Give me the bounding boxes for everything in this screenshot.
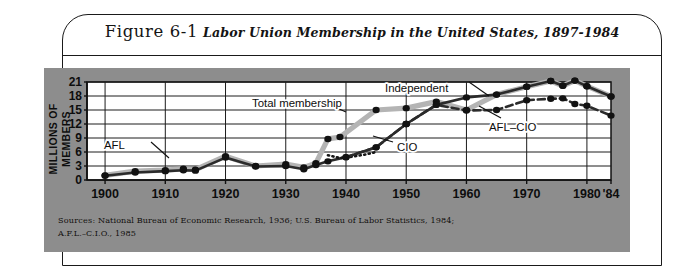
data-point: [523, 97, 530, 103]
data-point: [282, 163, 289, 169]
sources-line-1: National Bureau of Economic Research, 19…: [98, 215, 454, 225]
line-chart: 0369121518211900191019201930194019501960…: [44, 68, 630, 204]
data-point: [571, 101, 578, 107]
figure-title: Figure 6-1Labor Union Membership in the …: [62, 22, 662, 41]
data-point: [571, 77, 578, 83]
data-point: [222, 154, 229, 160]
data-point: [132, 169, 139, 175]
data-point: [300, 166, 307, 172]
data-point: [559, 95, 566, 101]
data-point: [583, 83, 590, 89]
data-point: [403, 105, 410, 111]
data-point: [547, 78, 554, 84]
x-tick-label: 1910: [151, 187, 179, 201]
data-point: [523, 83, 530, 89]
annotation-label: Total membership: [252, 97, 342, 109]
annotation-label: Independent: [385, 82, 449, 94]
figure-page: Figure 6-1Labor Union Membership in the …: [0, 0, 682, 278]
data-point: [342, 154, 349, 160]
x-tick-label: 1970: [513, 187, 541, 201]
annotation-label: CIO: [397, 141, 417, 153]
chart-plate: 0369121518211900191019201930194019501960…: [44, 68, 630, 204]
data-point: [180, 167, 187, 173]
x-tick-label: 1930: [272, 187, 300, 201]
figure-caption: Labor Union Membership in the United Sta…: [203, 25, 619, 40]
sources-line-2: A.F.L.–C.I.O., 1985: [58, 228, 136, 238]
figure-number: Figure 6-1: [105, 22, 198, 41]
annotation-label: AFL: [104, 139, 125, 151]
x-tick-label: 1900: [91, 187, 119, 201]
data-point: [373, 107, 380, 113]
x-tick-label: 1920: [212, 187, 240, 201]
data-point: [324, 136, 331, 142]
data-point: [493, 91, 500, 97]
data-point: [463, 107, 470, 113]
sources-label: Sources:: [58, 215, 95, 225]
x-tick-label: 1960: [453, 187, 481, 201]
x-tick-label: '84: [603, 187, 620, 201]
data-point: [433, 102, 440, 108]
data-point: [403, 121, 410, 127]
data-point: [607, 93, 614, 99]
annotation-label: AFL–CIO: [489, 121, 537, 133]
x-tick-label: 1940: [332, 187, 360, 201]
data-point: [324, 158, 331, 164]
y-axis-title-line-1: MILLIONS OF: [47, 84, 60, 194]
data-point: [463, 94, 470, 100]
data-point: [312, 162, 319, 168]
data-point: [607, 112, 614, 118]
data-point: [162, 168, 169, 174]
data-point: [559, 83, 566, 89]
data-point: [583, 103, 590, 109]
x-tick-label: 1950: [392, 187, 420, 201]
x-tick-label: 1980: [573, 187, 601, 201]
data-point: [373, 144, 380, 150]
title-divider: [62, 55, 662, 56]
data-point: [336, 134, 343, 140]
data-point: [192, 167, 199, 173]
sources-note: Sources: National Bureau of Economic Res…: [44, 204, 630, 252]
data-point: [493, 107, 500, 113]
y-axis-title-line-2: MEMBERS: [60, 84, 73, 194]
y-axis-title: MILLIONS OF MEMBERS: [47, 84, 77, 194]
data-point: [547, 96, 554, 102]
data-point: [252, 163, 259, 169]
data-point: [101, 173, 108, 179]
